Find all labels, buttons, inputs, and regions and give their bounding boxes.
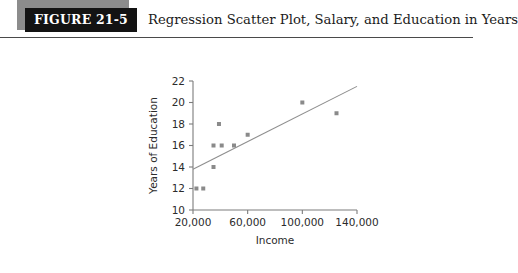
x-tick-label: 100,000 xyxy=(281,216,324,228)
y-tick-label: 12 xyxy=(172,182,185,194)
x-tick-label: 140,000 xyxy=(335,216,378,228)
header-divider xyxy=(0,37,473,38)
y-tick-label: 10 xyxy=(172,204,185,216)
data-point xyxy=(212,165,216,169)
y-tick-label: 18 xyxy=(172,118,185,130)
y-tick-label: 14 xyxy=(172,161,186,173)
data-point xyxy=(246,133,250,137)
figure-tag: FIGURE 21-5 xyxy=(25,8,137,32)
data-point xyxy=(217,122,221,126)
data-point xyxy=(232,144,236,148)
data-point xyxy=(300,101,304,105)
scatter-chart: 1012141618202220,00060,000100,000140,000… xyxy=(0,40,473,273)
regression-line xyxy=(193,86,357,169)
data-point xyxy=(220,144,224,148)
y-axis-title: Years of Education xyxy=(147,97,159,195)
figure-header: FIGURE 21-5 Regression Scatter Plot, Sal… xyxy=(0,0,473,40)
data-point xyxy=(194,187,198,191)
y-tick-label: 20 xyxy=(172,96,185,108)
x-tick-label: 60,000 xyxy=(229,216,266,228)
chart-canvas: 1012141618202220,00060,000100,000140,000… xyxy=(0,40,473,273)
figure-tag-label: FIGURE 21-5 xyxy=(25,8,137,32)
y-tick-label: 16 xyxy=(172,139,186,151)
x-tick-label: 20,000 xyxy=(175,216,212,228)
figure-title: Regression Scatter Plot, Salary, and Edu… xyxy=(148,9,518,31)
data-point xyxy=(212,144,216,148)
y-tick-label: 22 xyxy=(172,75,185,87)
data-point xyxy=(201,187,205,191)
data-point xyxy=(335,111,339,115)
x-axis-title: Income xyxy=(256,234,295,246)
